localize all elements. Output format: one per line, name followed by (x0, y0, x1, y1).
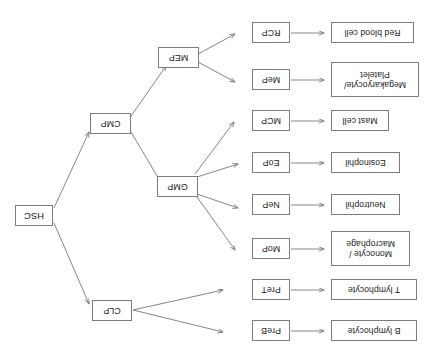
node-mep[interactable]: MEP (158, 47, 199, 68)
edge-clp-preb (133, 310, 223, 332)
node-preb[interactable]: PreB (252, 320, 290, 341)
arrow-layer (0, 0, 441, 354)
node-monocyte-macrophage[interactable]: Monocyte / Macrophage (331, 231, 410, 266)
node-monocyte-macrophage-label-line2: Macrophage (346, 239, 395, 249)
node-pret[interactable]: PreT (252, 279, 290, 300)
node-t-lymphocyte-label: T lymphocyte (348, 285, 400, 294)
node-eosinophil[interactable]: Eosinophil (331, 152, 400, 173)
node-eosinophil-label: Eosinophil (345, 158, 386, 167)
node-hsc[interactable]: HSC (15, 205, 53, 226)
node-eop-label: EoP (263, 158, 280, 168)
diagram-canvas: HSC CLP CMP GMP MEP PreB PreT MoP NeP Eo… (0, 0, 441, 354)
node-preb-label: PreB (261, 326, 281, 336)
node-gmp[interactable]: GMP (157, 176, 198, 197)
edge-clp-pret (133, 290, 223, 310)
node-mep-label: MEP (169, 53, 188, 63)
edge-cmp-mep (131, 66, 166, 116)
node-nep[interactable]: NeP (252, 194, 290, 215)
node-rcp[interactable]: RCP (252, 22, 290, 43)
node-mep-precursor-label: MeP (262, 75, 280, 85)
node-clp[interactable]: CLP (92, 300, 132, 321)
node-neutrophil-label: Neutrophil (345, 200, 385, 209)
edge-gmp-mcp (195, 122, 234, 174)
node-pret-label: PreT (261, 285, 280, 295)
node-mast-cell[interactable]: Mast cell (331, 110, 389, 131)
node-mep-precursor[interactable]: MeP (252, 69, 290, 90)
node-megakaryocyte-platelet-label-line1: Megakaryocyte/ (344, 80, 406, 90)
node-mcp-label: MCP (261, 116, 281, 126)
node-mast-cell-label: Mast cell (343, 116, 378, 125)
edge-mep-rcp (198, 34, 235, 54)
edge-hsc-clp (54, 223, 89, 304)
node-megakaryocyte-platelet[interactable]: Megakaryocyte/ Platelet (331, 62, 419, 97)
node-megakaryocyte-platelet-label-line2: Platelet (360, 70, 389, 80)
node-b-lymphocyte[interactable]: B lymphocyte (331, 320, 417, 341)
node-clp-label: CLP (103, 306, 120, 316)
node-rcp-label: RCP (262, 28, 281, 38)
node-mcp[interactable]: MCP (252, 110, 290, 131)
edge-gmp-nep (197, 194, 238, 208)
node-hsc-label: HSC (24, 210, 44, 220)
edge-gmp-mop (197, 197, 235, 250)
node-gmp-label: GMP (167, 182, 187, 192)
node-eop[interactable]: EoP (252, 152, 290, 173)
node-mop-label: MoP (262, 244, 280, 254)
edge-gmp-eop (197, 164, 238, 177)
node-mop[interactable]: MoP (252, 238, 290, 259)
node-cmp[interactable]: CMP (90, 113, 131, 134)
node-red-blood-cell-label: Red blood cell (345, 28, 401, 37)
node-cmp-label: CMP (101, 119, 121, 129)
node-nep-label: NeP (262, 200, 279, 210)
node-b-lymphocyte-label: B lymphocyte (348, 326, 401, 335)
node-red-blood-cell[interactable]: Red blood cell (331, 22, 414, 43)
edge-hsc-cmp (54, 132, 89, 208)
node-t-lymphocyte[interactable]: T lymphocyte (331, 279, 417, 300)
node-neutrophil[interactable]: Neutrophil (331, 194, 400, 215)
node-monocyte-macrophage-label-line1: Monocyte / (349, 249, 392, 259)
edge-mep-mep2 (198, 62, 235, 82)
